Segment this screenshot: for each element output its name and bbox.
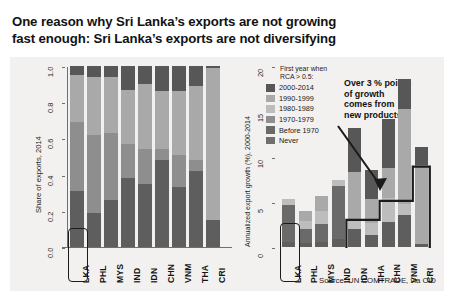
y-tick-label: 0.0: [46, 248, 55, 258]
y-tick-mark: [272, 203, 275, 204]
bar-segment: [87, 77, 101, 136]
bar-segment: [172, 91, 186, 155]
bar-segment: [138, 84, 152, 150]
figure-canvas: Share of exports, 2014 0.00.20.40.60.81.…: [10, 57, 444, 291]
bar-mys[interactable]: [104, 66, 118, 247]
right-y-axis-label: Annualized export growth (%), 2000-2014: [244, 116, 252, 247]
bar-segment: [70, 75, 84, 123]
bar-segment: [121, 144, 135, 179]
bar-phl[interactable]: [87, 66, 101, 247]
x-label-idn: IDN: [149, 268, 159, 283]
bar-segment: [155, 91, 169, 150]
y-tick-label: 0: [256, 254, 265, 258]
y-tick-mark: [62, 67, 65, 68]
x-label-vnm: VNM: [183, 263, 193, 283]
right-panel: Annualized export growth (%), 2000-2014 …: [236, 61, 442, 287]
bar-idn[interactable]: [138, 66, 152, 247]
bar-cri[interactable]: [206, 66, 220, 247]
x-label-lka: LKA: [81, 265, 91, 283]
y-tick-label: 1.0: [46, 67, 55, 77]
left-x-axis-line: [62, 247, 232, 248]
bar-segment: [155, 66, 169, 92]
page-title: One reason why Sri Lanka’s exports are n…: [12, 13, 442, 47]
source-note: Source: UN COMTRADE, via CID: [319, 276, 436, 285]
left-y-axis-line: [67, 67, 68, 248]
bar-segment: [104, 66, 118, 78]
title-line-1: One reason why Sri Lanka’s exports are n…: [12, 13, 442, 30]
bar-segment: [172, 187, 186, 247]
bar-segment: [87, 135, 101, 214]
y-tick-label: 5: [256, 209, 265, 213]
y-tick-mark: [272, 248, 275, 249]
bar-segment: [172, 155, 186, 188]
left-panel: Share of exports, 2014 0.00.20.40.60.81.…: [24, 61, 236, 287]
bar-segment: [104, 200, 118, 247]
y-tick-label: 0.6: [46, 139, 55, 149]
x-label-phl: PHL: [309, 265, 319, 283]
x-label-chn: CHN: [166, 264, 176, 283]
x-label-phl: PHL: [98, 265, 108, 283]
y-tick-label: 0.8: [46, 103, 55, 113]
bar-segment: [155, 160, 169, 247]
bar-segment: [138, 184, 152, 247]
left-y-axis-label: Share of exports, 2014: [34, 136, 43, 213]
annotation-arrow-icon: [332, 121, 402, 199]
right-x-axis-line: [280, 248, 444, 249]
y-tick-mark: [62, 212, 65, 213]
bar-segment: [206, 220, 220, 247]
legend-swatch: [266, 95, 275, 103]
bar-tha[interactable]: [189, 66, 203, 247]
y-tick-label: 10: [256, 159, 265, 167]
legend-swatch: [266, 126, 275, 134]
x-label-ind: IND: [132, 268, 142, 283]
legend-swatch: [266, 116, 275, 124]
bar-ind[interactable]: [121, 66, 135, 247]
bar-segment: [121, 90, 135, 145]
bar-chn[interactable]: [155, 66, 169, 247]
bar-segment: [138, 149, 152, 184]
bar-segment: [121, 66, 135, 90]
bar-segment: [189, 86, 203, 161]
chart-figure: One reason why Sri Lanka’s exports are n…: [0, 0, 451, 300]
bar-segment: [121, 178, 135, 247]
bar-segment: [104, 133, 118, 201]
bar-segment: [87, 66, 101, 78]
bar-segment: [172, 66, 186, 92]
y-tick-mark: [62, 103, 65, 104]
y-tick-mark: [62, 139, 65, 140]
x-label-tha: THA: [200, 265, 210, 283]
bar-segment: [189, 171, 203, 247]
y-tick-mark: [272, 158, 275, 159]
y-tick-label: 20: [256, 69, 265, 77]
title-line-2: fast enough: Sri Lanka’s exports are not…: [12, 30, 442, 47]
y-tick-mark: [62, 176, 65, 177]
y-tick-label: 15: [256, 114, 265, 122]
bar-segment: [206, 68, 220, 221]
x-label-cri: CRI: [217, 268, 227, 283]
bar-segment: [189, 66, 203, 87]
bar-lka[interactable]: [70, 66, 84, 247]
legend-swatch: [266, 137, 275, 145]
bar-segment: [138, 66, 152, 85]
bar-segment: [70, 122, 84, 192]
y-tick-mark: [62, 248, 65, 249]
legend-swatch: [266, 84, 275, 92]
bar-segment: [87, 213, 101, 247]
bar-segment: [189, 160, 203, 172]
bar-segment: [155, 149, 169, 161]
legend-swatch: [266, 105, 275, 113]
x-label-mys: MYS: [115, 264, 125, 283]
left-plot-area: [68, 67, 226, 247]
bar-vnm[interactable]: [172, 66, 186, 247]
y-tick-label: 0.4: [46, 175, 55, 185]
x-label-lka: LKA: [293, 265, 303, 283]
bar-segment: [70, 191, 84, 247]
y-tick-label: 0.2: [46, 212, 55, 222]
bar-segment: [104, 77, 118, 134]
